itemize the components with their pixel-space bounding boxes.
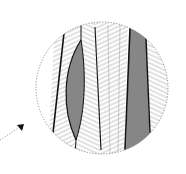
arrowhead-icon	[17, 124, 24, 131]
tissue-inset	[30, 15, 175, 165]
magnified-tissue-diagram	[0, 0, 186, 174]
leader-arrow	[0, 124, 24, 140]
